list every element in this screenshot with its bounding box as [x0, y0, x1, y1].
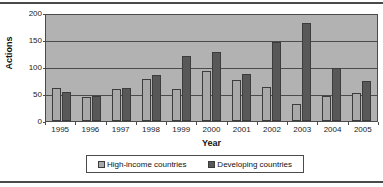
x-tick-label: 2002: [257, 125, 287, 137]
bar: [332, 68, 341, 121]
x-tick-label: 2004: [317, 125, 347, 137]
x-tick-mark: [106, 122, 107, 125]
bar: [112, 89, 121, 121]
y-tick-label-200: 200: [12, 10, 42, 18]
bar: [352, 93, 361, 121]
bar: [52, 88, 61, 121]
bar: [142, 79, 151, 121]
x-tick-label: 1997: [106, 125, 136, 137]
x-tick-mark: [227, 122, 228, 125]
legend-item-developing: Developing countries: [208, 160, 292, 169]
x-tick-mark: [196, 122, 197, 125]
bar: [272, 42, 281, 121]
x-axis-tick-labels: 1995199619971998199920002001200220032004…: [45, 125, 378, 137]
legend-item-high-income: High-income countries: [98, 160, 187, 169]
y-axis-tick-labels: 200 150 100 50 0: [8, 14, 42, 122]
y-tick-label-100: 100: [12, 64, 42, 72]
x-tick-mark: [45, 122, 46, 125]
bar: [242, 74, 251, 121]
bar: [152, 75, 161, 121]
x-tick-label: 1995: [45, 125, 75, 137]
bar: [122, 88, 131, 121]
x-tick-mark: [136, 122, 137, 125]
x-tick-mark: [75, 122, 76, 125]
x-tick-label: 1999: [166, 125, 196, 137]
bar-group: [46, 15, 76, 121]
x-tick-label: 2005: [348, 125, 378, 137]
bar-group: [257, 15, 287, 121]
bar: [172, 89, 181, 121]
x-tick-mark: [166, 122, 167, 125]
bar: [82, 97, 91, 121]
x-tick-label: 1996: [75, 125, 105, 137]
y-tick-label-50: 50: [12, 91, 42, 99]
figure-container: Actions 200 150 100 50 0 199519961997199…: [0, 0, 383, 187]
bar: [182, 56, 191, 121]
legend-swatch-icon-high-income: [98, 161, 105, 168]
bar: [292, 104, 301, 121]
x-tick-mark: [287, 122, 288, 125]
x-tick-mark: [317, 122, 318, 125]
plot-area: [45, 14, 378, 122]
figure-top-rule: [0, 2, 383, 4]
x-tick-label: 2001: [227, 125, 257, 137]
bar-group: [347, 15, 377, 121]
bar-group: [227, 15, 257, 121]
bar: [262, 87, 271, 121]
bar-group: [76, 15, 106, 121]
bar-group: [317, 15, 347, 121]
x-tick-mark: [378, 122, 379, 125]
legend-swatch-icon-developing: [208, 161, 215, 168]
bar-group: [106, 15, 136, 121]
legend-label-high-income: High-income countries: [107, 160, 187, 169]
x-tick-label: 2003: [287, 125, 317, 137]
bar: [302, 23, 311, 121]
bar-group: [196, 15, 226, 121]
bar: [62, 92, 71, 121]
legend-label-developing: Developing countries: [217, 160, 292, 169]
figure-bottom-rule: [0, 181, 383, 183]
bar: [322, 96, 331, 121]
bar-group: [287, 15, 317, 121]
bar: [232, 80, 241, 121]
bar: [362, 81, 371, 121]
bar-groups: [46, 15, 377, 121]
bar-group: [136, 15, 166, 121]
x-tick-mark: [348, 122, 349, 125]
chart-legend: High-income countries Developing countri…: [86, 155, 304, 173]
y-tick-label-0: 0: [12, 118, 42, 126]
x-tick-label: 1998: [136, 125, 166, 137]
bar-group: [166, 15, 196, 121]
x-tick-mark: [257, 122, 258, 125]
x-tick-label: 2000: [196, 125, 226, 137]
x-axis-title: Year: [45, 138, 378, 148]
y-tick-label-150: 150: [12, 37, 42, 45]
bar: [202, 71, 211, 121]
bar: [92, 96, 101, 121]
bar: [212, 52, 221, 121]
